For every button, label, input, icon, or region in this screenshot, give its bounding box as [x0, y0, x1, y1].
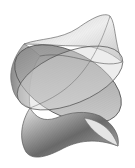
surface-illustration [0, 0, 135, 168]
